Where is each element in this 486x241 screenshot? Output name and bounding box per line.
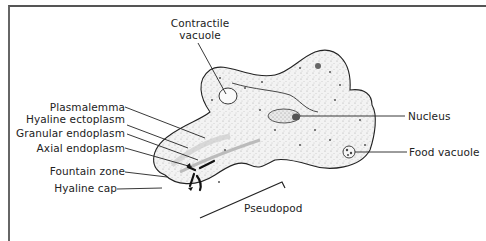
cell-membrane — [154, 50, 376, 183]
label-pseudopod: Pseudopod — [244, 202, 302, 214]
label-granular-endoplasm: Granular endoplasm — [16, 127, 125, 139]
label-contractile-line1: Contractile — [150, 17, 250, 29]
label-axial-endoplasm: Axial endoplasm — [37, 142, 125, 154]
food-vacuole — [343, 146, 355, 158]
label-nucleus: Nucleus — [408, 110, 451, 122]
label-hyaline-ectoplasm: Hyaline ectoplasm — [26, 113, 125, 125]
contractile-vacuole — [219, 88, 237, 104]
label-plasmalemma: Plasmalemma — [50, 101, 125, 113]
label-contractile-line2: vacuole — [150, 29, 250, 41]
label-food-vacuole: Food vacuole — [409, 146, 480, 158]
label-contractile-vacuole: Contractile vacuole — [150, 17, 250, 41]
label-fountain-zone: Fountain zone — [50, 165, 125, 177]
label-hyaline-cap: Hyaline cap — [54, 182, 117, 194]
